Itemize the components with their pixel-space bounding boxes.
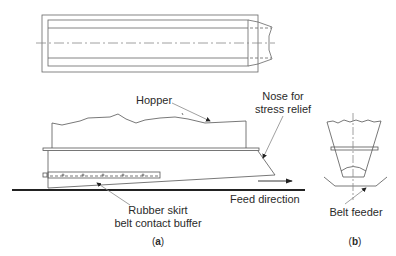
caption-b: (b): [349, 236, 362, 247]
plan-view: [36, 15, 275, 72]
belt-trough: [324, 177, 387, 186]
hopper-flange: [43, 148, 259, 151]
end-hopper-top: [327, 120, 381, 123]
hopper-leader: [172, 103, 210, 121]
hopper-outline: [52, 114, 246, 148]
belt-feeder-hopper-diagram: Hopper Nose for stress relief Feed direc…: [0, 0, 396, 256]
skirt-label-line2: belt contact buffer: [114, 217, 201, 229]
nose-label-line2: stress relief: [255, 103, 311, 115]
plan-outer-frame: [42, 15, 258, 72]
side-view: [12, 103, 305, 205]
belt-feeder-label: Belt feeder: [329, 206, 382, 218]
end-flange: [331, 147, 378, 150]
end-inner-arc: [341, 167, 366, 172]
skirt-label-line1: Rubber skirt: [128, 204, 187, 216]
hopper-label: Hopper: [136, 94, 172, 106]
nose-leader: [263, 116, 283, 158]
caption-a: (a): [152, 236, 164, 247]
end-view: [324, 113, 387, 204]
nose-label-line1: Nose for: [262, 90, 304, 102]
feed-direction-label: Feed direction: [230, 193, 300, 205]
skirt-leader: [97, 183, 130, 205]
nose-outline: [48, 151, 275, 188]
belt-feeder-leader: [345, 188, 366, 204]
